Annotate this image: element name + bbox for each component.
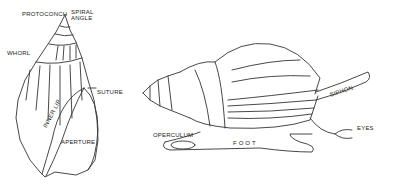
left-shell-outline bbox=[16, 15, 98, 177]
label-protoconch: PROTOCONCH bbox=[22, 11, 67, 17]
label-foot: FOOT bbox=[233, 140, 258, 146]
label-whorl: WHORL bbox=[7, 50, 30, 56]
label-operculum: OPERCULUM bbox=[153, 132, 193, 138]
shell-anatomy-diagram: PROTOCONCH SPIRAL ANGLE WHORL SUTURE INN… bbox=[0, 0, 395, 189]
label-aperture: APERTURE bbox=[61, 139, 95, 145]
label-angle: ANGLE bbox=[71, 15, 92, 21]
label-suture: SUTURE bbox=[97, 89, 123, 95]
label-eyes: EYES bbox=[357, 125, 374, 131]
